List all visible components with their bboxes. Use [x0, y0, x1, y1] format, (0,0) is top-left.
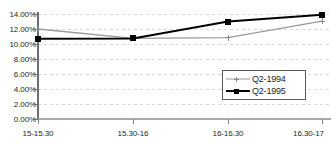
legend-item-q2-1995: Q2-1995 [226, 85, 301, 97]
legend-label: Q2-1995 [252, 86, 286, 96]
line-chart: 14.00% 12.00% 10.00% 8.00% 6.00% 4.00% 2… [0, 0, 332, 143]
axis-lines [38, 12, 331, 119]
chart-legend: Q2-1994 Q2-1995 [222, 70, 306, 100]
legend-item-q2-1994: Q2-1994 [226, 73, 301, 85]
legend-marker-cross-icon [226, 74, 250, 84]
x-axis-ticks [38, 119, 322, 124]
series-q2-1995 [35, 12, 325, 42]
legend-label: Q2-1994 [252, 74, 286, 84]
legend-marker-square-icon [226, 86, 250, 96]
